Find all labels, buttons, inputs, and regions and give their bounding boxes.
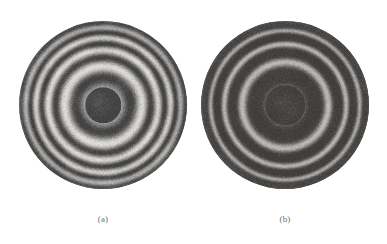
panel-label-b: (b) [279, 214, 290, 224]
fringe-pattern-a [19, 21, 187, 189]
fringe-canvas-b [201, 21, 369, 189]
panel-label-a: (a) [98, 214, 109, 224]
fringe-canvas-a [19, 21, 187, 189]
fringe-pattern-b [201, 21, 369, 189]
figure-root: (a) (b) [0, 0, 387, 244]
